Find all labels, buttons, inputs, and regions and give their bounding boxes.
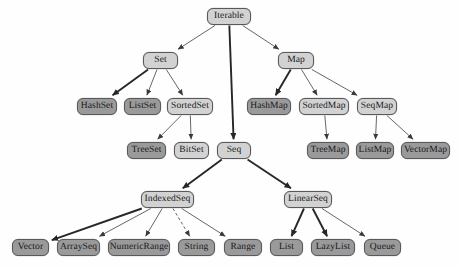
- collections-hierarchy-diagram: IterableSetMapHashSetListSetSortedSetHas…: [0, 0, 460, 268]
- node-arrayseq[interactable]: ArraySeq: [57, 239, 100, 256]
- edge-sortedset-to-treeset: [158, 116, 181, 140]
- node-label: Vector: [18, 243, 43, 253]
- edge-layer: [0, 0, 460, 268]
- edge-seqmap-to-listmap: [376, 116, 377, 140]
- node-seqmap[interactable]: SeqMap: [357, 98, 397, 115]
- node-label: Range: [231, 243, 256, 253]
- edge-set-to-sortedset: [166, 70, 182, 96]
- node-label: TreeMap: [310, 146, 345, 156]
- node-label: LinearSeq: [288, 195, 328, 205]
- node-linearseq[interactable]: LinearSeq: [284, 191, 332, 208]
- node-label: Seq: [227, 146, 242, 156]
- node-label: List: [279, 243, 294, 253]
- node-vector[interactable]: Vector: [12, 239, 49, 256]
- node-label: String: [185, 243, 209, 253]
- node-hashmap[interactable]: HashMap: [247, 98, 291, 115]
- node-label: TreeSet: [132, 146, 162, 156]
- edge-seq-to-linearseq: [248, 160, 291, 189]
- node-label: IndexedSeq: [145, 195, 191, 205]
- node-label: Queue: [370, 243, 395, 253]
- edge-seqmap-to-vectormap: [387, 116, 413, 140]
- edge-iterable-to-map: [243, 26, 279, 50]
- node-label: VectorMap: [404, 146, 447, 156]
- edge-indexedseq-to-numericrange: [146, 209, 162, 237]
- edge-indexedseq-to-vector: [52, 209, 142, 241]
- node-label: SortedMap: [302, 102, 345, 112]
- edge-iterable-to-set: [178, 26, 215, 50]
- node-label: NumericRange: [110, 243, 169, 253]
- node-string[interactable]: String: [178, 239, 215, 256]
- node-label: BitSet: [179, 146, 203, 156]
- edge-set-to-hashset: [113, 70, 148, 96]
- edges: [52, 26, 413, 241]
- edge-indexedseq-to-string: [173, 209, 190, 237]
- edge-linearseq-to-list: [292, 209, 304, 237]
- node-listmap[interactable]: ListMap: [356, 142, 394, 159]
- edge-linearseq-to-lazylist: [313, 209, 327, 237]
- node-queue[interactable]: Queue: [364, 239, 401, 256]
- node-label: ArraySeq: [60, 243, 97, 253]
- edge-iterable-to-seq: [229, 26, 233, 140]
- node-seq[interactable]: Seq: [217, 142, 251, 159]
- node-label: LazyList: [316, 243, 351, 253]
- node-label: ListSet: [129, 102, 157, 112]
- node-hashset[interactable]: HashSet: [77, 98, 117, 115]
- edge-linearseq-to-queue: [322, 209, 365, 237]
- edge-map-to-seqmap: [312, 70, 357, 96]
- node-iterable[interactable]: Iterable: [207, 8, 251, 25]
- node-vectormap[interactable]: VectorMap: [401, 142, 450, 159]
- node-numericrange[interactable]: NumericRange: [108, 239, 170, 256]
- node-treemap[interactable]: TreeMap: [307, 142, 349, 159]
- node-indexedseq[interactable]: IndexedSeq: [141, 191, 194, 208]
- node-map[interactable]: Map: [278, 52, 314, 69]
- edge-set-to-listset: [147, 70, 157, 96]
- edge-seq-to-indexedseq: [183, 160, 222, 189]
- node-list[interactable]: List: [270, 239, 303, 256]
- node-label: Iterable: [214, 12, 244, 22]
- edge-map-to-hashmap: [276, 70, 291, 96]
- node-set[interactable]: Set: [143, 52, 178, 69]
- node-listset[interactable]: ListSet: [124, 98, 161, 115]
- node-label: SeqMap: [361, 102, 393, 112]
- node-lazylist[interactable]: LazyList: [311, 239, 355, 256]
- edge-sortedset-to-bitset: [190, 116, 191, 140]
- node-sortedmap[interactable]: SortedMap: [299, 98, 349, 115]
- node-label: Set: [154, 56, 166, 66]
- node-label: HashSet: [81, 102, 113, 112]
- node-bitset[interactable]: BitSet: [174, 142, 209, 159]
- node-range[interactable]: Range: [224, 239, 262, 256]
- node-treeset[interactable]: TreeSet: [127, 142, 166, 159]
- node-label: ListMap: [359, 146, 392, 156]
- node-label: SortedSet: [171, 102, 209, 112]
- edge-sortedmap-to-treemap: [325, 116, 327, 140]
- node-label: Map: [287, 56, 305, 66]
- node-label: HashMap: [250, 102, 288, 112]
- edge-indexedseq-to-range: [182, 209, 226, 237]
- edge-indexedseq-to-arrayseq: [99, 209, 150, 237]
- node-sortedset[interactable]: SortedSet: [167, 98, 213, 115]
- edge-map-to-sortedmap: [301, 70, 317, 96]
